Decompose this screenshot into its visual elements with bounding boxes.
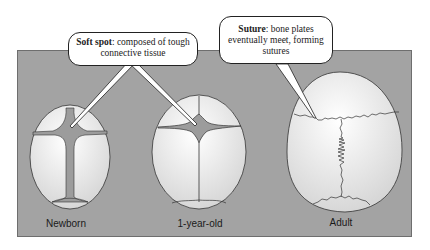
newborn-skull — [30, 105, 110, 209]
soft-spot-term: Soft spot — [76, 37, 112, 47]
adult-label: Adult — [301, 217, 381, 228]
soft-spot-description: : composed of tough connective tissue — [100, 37, 189, 58]
one-year-old-label: 1-year-old — [160, 218, 240, 229]
one-year-old-skull — [152, 95, 246, 209]
adult-skull — [287, 72, 402, 212]
soft-spot-callout: Soft spot: composed of tough connective … — [68, 32, 198, 66]
suture-term: Suture — [238, 24, 265, 34]
newborn-label: Newborn — [26, 218, 106, 229]
suture-callout: Suture: bone plates eventually meet, for… — [219, 16, 333, 64]
skull-diagram — [0, 0, 430, 250]
